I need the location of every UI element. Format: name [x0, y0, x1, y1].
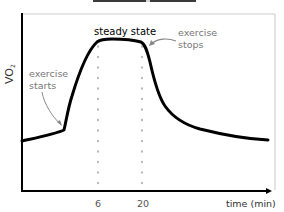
vo2-diagram: steady state exercise starts exercise st…: [0, 0, 284, 212]
exercise-stops-arrowhead-icon: [149, 40, 155, 46]
x-tick-6: 6: [95, 198, 101, 209]
chart-svg: steady state exercise starts exercise st…: [0, 0, 284, 212]
y-axis-label-subscript: 2: [9, 64, 16, 68]
x-axis-label: time (min): [226, 198, 276, 209]
svg-text:VO2: VO2: [3, 64, 16, 84]
exercise-starts-arrow: [42, 92, 61, 125]
top-cropped-bar: [93, 0, 196, 2]
x-tick-20: 20: [137, 198, 149, 209]
exercise-starts-label-line1: exercise: [29, 68, 68, 79]
steady-state-label: steady state: [94, 26, 156, 37]
exercise-starts-label-line2: starts: [29, 80, 56, 91]
exercise-stops-arrow: [151, 39, 176, 44]
exercise-stops-label-line2: stops: [178, 39, 204, 50]
y-axis-label-main: VO: [3, 68, 16, 84]
exercise-stops-label-line1: exercise: [178, 27, 217, 38]
vo2-curve: [22, 39, 268, 141]
x-axis-arrow-icon: [266, 188, 272, 194]
y-axis-label: VO2: [3, 64, 16, 84]
top-cropped-bar-gap: [146, 0, 150, 2]
